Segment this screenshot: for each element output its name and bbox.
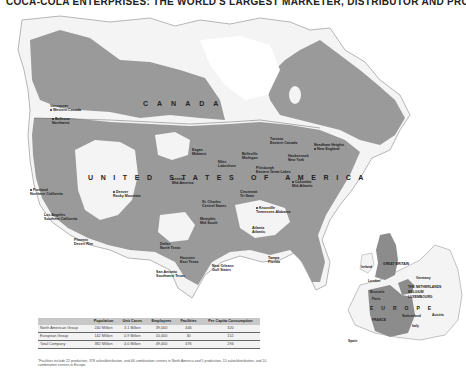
population-cell: 142 Million [89,332,118,340]
facilities-cell: 446 [176,325,201,333]
region-label: San AntonioSouthwest Texas [156,270,185,278]
europe-label-spain: Spain [348,339,357,343]
region-label: NilesLakeshore [218,160,236,168]
unit-cases-cell: 4.0 Billion [118,340,147,348]
region-label: BellevilleMichigan [242,152,258,160]
europe-label-great-britain: GREAT BRITAIN [383,262,409,266]
europe-label-ireland: Ireland [361,265,372,269]
per-capita-cell: 320 [201,325,260,333]
location-marker-icon [314,148,316,150]
location-marker-icon [52,118,54,120]
europe-label-switzerland: Switzerland [402,314,421,318]
table-row: North American Group 240 Million 3.1 Bil… [38,325,260,333]
region-label: VancouverWestern Canada [50,104,81,112]
location-marker-icon [256,207,258,209]
company-stats-table: Population Unit Cases Employees Faciliti… [38,318,260,349]
region-label: St. CharlesCentral States [202,200,226,208]
region-label: DallasNorth Texas [160,242,181,250]
region-label: TorontoEastern Canada [270,137,297,145]
region-label: CincinnatiTri State [240,190,257,198]
europe-label-france: FRANCE [372,318,386,322]
region-label: DenverRocky Mountain [113,190,141,198]
table-row: Total Company 382 Million 4.0 Billion 49… [38,340,260,348]
employees-cell: 39,000 [147,325,176,333]
employees-cell: 10,000 [147,332,176,340]
region-label: BellevueNorthwest [52,117,70,125]
europe-map [340,225,466,345]
region-label: TampaFlorida [268,256,280,264]
region-label: Needham HeightsNew England [314,143,344,151]
facilities-cell: 476 [176,340,201,348]
location-marker-icon [30,189,32,191]
group-name: European Group [38,332,89,340]
region-label: PhoenixDesert Rim [74,238,93,246]
europe-label-netherlands: THE NETHERLANDS [408,285,441,289]
employees-cell: 49,000 [147,340,176,348]
country-label-canada: CANADA [143,100,227,107]
unit-cases-cell: 0.9 Billion [118,332,147,340]
region-label: New OrleansGulf States [212,264,234,272]
region-label: HoustonEast Texas [180,256,199,264]
table-footnote: *Facilities include 22 production, 378 s… [38,359,278,368]
country-label-europe: EUROPE [370,305,439,311]
region-label: MemphisMid South [200,217,217,225]
region-label: ColumbiaMid-Atlantic [292,180,313,188]
europe-label-austria: Austria [432,313,444,317]
per-capita-cell: 152 [201,332,260,340]
population-cell: 240 Million [89,325,118,333]
region-label: Los AngelesSouthern California [44,213,77,221]
region-label: HackensackNew York [288,154,309,162]
country-label-usa: UNITED STATES OF AMERICA [88,174,371,181]
group-name: Total Company [38,340,89,348]
table-row: European Group 142 Million 0.9 Billion 1… [38,332,260,340]
facilities-cell: 30 [176,332,201,340]
location-marker-icon [113,191,115,193]
location-marker-icon [292,181,294,183]
location-marker-icon [50,109,52,111]
europe-label-brussels: Brussels [370,290,384,294]
europe-label-london: London [368,279,380,283]
population-cell: 382 Million [89,340,118,348]
region-label: PittsburghEastern Great Lakes [256,166,291,174]
europe-label-belgium: BELGIUM [408,290,424,294]
per-capita-cell: 294 [201,340,260,348]
europe-label-germany: Germany [416,276,431,280]
unit-cases-cell: 3.1 Billion [118,325,147,333]
region-label: KnoxvilleTennessee-Alabama [256,206,291,214]
europe-label-italy: Italy [412,324,419,328]
europe-label-luxembourg: LUXEMBOURG [408,295,433,299]
region-label: AtlantaAtlantic [252,226,265,234]
region-label: PortlandNorthern California [30,188,63,196]
region-label: LenexaMid-America [172,177,194,185]
region-label: EaganMidwest [192,148,206,156]
non-territory-quebec [289,86,301,104]
group-name: North American Group [38,325,89,333]
europe-label-paris: Paris [372,297,380,301]
